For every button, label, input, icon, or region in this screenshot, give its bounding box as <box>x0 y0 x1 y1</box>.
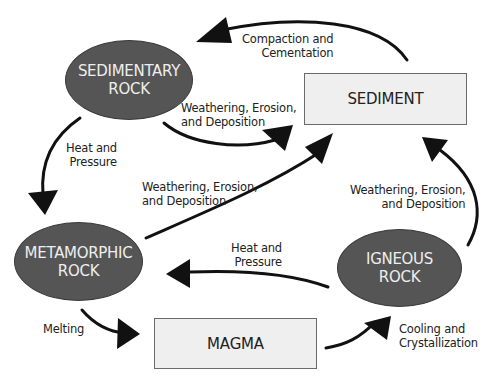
magma-node: MAGMA <box>154 318 317 369</box>
metamorphic-rock-line1: METAMORPHIC <box>25 244 133 262</box>
label-ign-weathering: Weathering, Erosion, and Deposition <box>350 183 465 211</box>
metamorphic-rock-node: METAMORPHIC ROCK <box>14 222 143 301</box>
arrowhead-sed-heat <box>28 190 58 215</box>
arrowhead-compaction <box>196 17 232 43</box>
sediment-node: SEDIMENT <box>304 73 467 125</box>
igneous-rock-node: IGNEOUS ROCK <box>337 229 462 307</box>
igneous-rock-line1: IGNEOUS <box>366 250 433 268</box>
label-melting: Melting <box>43 322 84 336</box>
label-sed-heat: Heat and Pressure <box>66 141 117 169</box>
arrowhead-melting <box>117 318 140 349</box>
metamorphic-rock-line2: ROCK <box>58 262 99 280</box>
arrow-cooling <box>326 322 375 348</box>
label-meta-weathering: Weathering, Erosion, and Deposition <box>142 180 257 208</box>
sediment-label: SEDIMENT <box>347 90 423 108</box>
label-compaction: Compaction and Cementation <box>242 32 333 60</box>
label-ign-heat: Heat and Pressure <box>231 241 282 269</box>
rock-cycle-diagram: SEDIMENTARY ROCK SEDIMENT METAMORPHIC RO… <box>0 0 498 385</box>
label-sed-weathering: Weathering, Erosion, and Deposition <box>181 101 296 129</box>
arrowhead-ign-heat <box>166 259 190 288</box>
sedimentary-rock-node: SEDIMENTARY ROCK <box>65 40 193 120</box>
arrow-ign-heat <box>190 271 328 287</box>
magma-label: MAGMA <box>207 335 264 353</box>
label-cooling: Cooling and Crystallization <box>399 322 478 350</box>
igneous-rock-line2: ROCK <box>379 268 420 286</box>
sedimentary-rock-line1: SEDIMENTARY <box>78 62 180 80</box>
arrowhead-ign-weathering <box>422 137 448 162</box>
sedimentary-rock-line2: ROCK <box>108 80 149 98</box>
